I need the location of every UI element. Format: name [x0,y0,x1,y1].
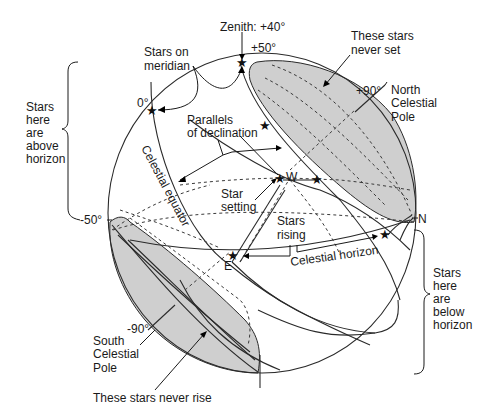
celestial-equator-label: Celestial equator [138,143,193,229]
above-horizon-label-3: are [26,126,44,140]
scp-label-1: South [93,334,124,348]
ncp-label-3: Pole [391,110,415,124]
parallels-bracket [180,140,232,180]
below-horizon-label-4: below [433,305,465,319]
arrowhead-meridian-1 [158,106,165,113]
east-label: E [224,259,232,273]
west-label: W [286,170,298,184]
below-horizon-label-3: are [433,292,451,306]
plus90-label: +90° [356,84,381,98]
ncp-pointer [385,82,387,85]
never-set-label-1: These stars [351,29,414,43]
above-horizon-label-4: above [26,139,59,153]
above-horizon-label-2: here [26,113,50,127]
zenith-label: Zenith: +40° [220,20,285,34]
ncp-label-2: Celestial [391,96,437,110]
stars-rising-label-1: Stars [277,214,305,228]
setting-star: ★ [274,171,286,186]
meridian-label-1: Stars on [144,45,189,59]
meridian-pointer-curve-2 [193,66,242,88]
parallel-star: ★ [259,118,271,133]
celestial-sphere-diagram: ★ ★ ★ ★ ★ ★ ★ Zenith: +40° +50° These st… [0,0,496,419]
zero-degree-label: 0° [137,96,149,110]
meridian-label-2: meridian [144,59,190,73]
minus50-label: -50° [80,213,102,227]
parallels-label-2: of declination [187,126,258,140]
zenith-star: ★ [236,55,248,70]
north-horizon-star: ★ [379,227,391,242]
star-setting-label-1: Star [221,187,243,201]
never-rise-label: These stars never rise [93,391,212,405]
plus50-label: +50° [251,41,276,55]
parallels-arrow-2 [232,148,280,152]
celestial-horizon-back [113,212,414,230]
parallels-label-1: Parallels [187,113,233,127]
below-horizon-brace [414,230,430,374]
minus90-label: -90° [127,322,149,336]
rising-arrowhead-right [372,234,378,240]
declination-parallel-bottom-1 [232,262,398,333]
celestial-horizon-label: Celestial horizon [289,243,379,269]
north-label: N [418,212,427,226]
scp-label-3: Pole [93,361,117,375]
scp-label-2: Celestial [93,347,139,361]
never-set-label-2: never set [351,43,401,57]
above-horizon-brace [62,62,80,220]
ncp-label-1: North [391,83,420,97]
below-horizon-label-1: Stars [433,266,461,280]
parallels-arrowhead-2 [276,145,282,151]
stars-rising-label-2: rising [277,228,306,242]
parallels-arrow-3 [240,136,278,175]
below-horizon-label-2: here [433,279,457,293]
below-horizon-label-5: horizon [433,318,472,332]
parallels-arrowhead-1 [178,176,186,182]
star-setting-label-2: setting [221,200,256,214]
star-near-west: ★ [311,172,323,187]
above-horizon-label-1: Stars [26,100,54,114]
above-horizon-label-5: horizon [26,152,65,166]
rising-arrowhead-left [243,253,249,259]
